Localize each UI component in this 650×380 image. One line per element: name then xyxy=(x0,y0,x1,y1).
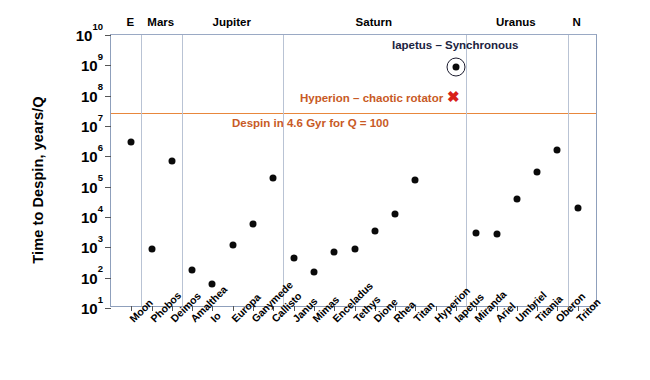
y-axis-title: Time to Despin, years/Q xyxy=(30,50,46,310)
data-point-rhea xyxy=(392,210,399,217)
group-divider xyxy=(568,35,569,306)
x-axis-label-io: Io xyxy=(208,310,223,325)
data-point-ganymede xyxy=(250,220,257,227)
y-axis-tick xyxy=(105,126,111,127)
data-point-callisto xyxy=(270,174,277,181)
data-point-iapetus xyxy=(452,63,459,70)
data-point-amalthea xyxy=(189,266,196,273)
group-header-strip: EMarsJupiterSaturnUranusN xyxy=(110,16,597,34)
data-point-europa xyxy=(229,241,236,248)
group-divider xyxy=(182,35,183,306)
annotation-despin: Despin in 4.6 Gyr for Q = 100 xyxy=(232,117,389,129)
y-axis-label: 105 xyxy=(81,179,103,195)
group-divider xyxy=(283,35,284,306)
data-point-oberon xyxy=(554,147,561,154)
group-divider xyxy=(466,35,467,306)
data-point-phobos xyxy=(148,245,155,252)
y-axis-tick xyxy=(105,156,111,157)
y-axis-label: 108 xyxy=(81,88,103,104)
group-divider xyxy=(141,35,142,306)
y-axis-tick xyxy=(105,247,111,248)
x-marker-icon: ✖ xyxy=(447,88,460,105)
annotation-hyperion: Hyperion – chaotic rotator✖ xyxy=(300,88,460,106)
data-point-dione xyxy=(371,227,378,234)
y-axis-label: 109 xyxy=(81,57,103,73)
y-axis-tick xyxy=(105,35,111,36)
y-axis-label: 104 xyxy=(81,209,103,225)
data-point-mimas xyxy=(310,269,317,276)
data-point-triton xyxy=(574,204,581,211)
plot-area: 1010109108107106105104103102101 xyxy=(110,34,597,307)
data-point-umbriel xyxy=(513,195,520,202)
data-point-enceladus xyxy=(331,249,338,256)
y-axis-tick xyxy=(105,308,111,309)
y-axis-label: 102 xyxy=(81,270,103,286)
data-point-titania xyxy=(534,169,541,176)
data-point-io xyxy=(209,281,216,288)
annotation-hyperion-text: Hyperion – chaotic rotator xyxy=(300,92,443,104)
chart-root: Time to Despin, years/Q EMarsJupiterSatu… xyxy=(0,0,650,380)
y-axis-tick xyxy=(105,217,111,218)
data-point-miranda xyxy=(473,229,480,236)
data-point-ariel xyxy=(493,230,500,237)
group-header-jupiter: Jupiter xyxy=(172,16,292,28)
data-point-tethys xyxy=(351,245,358,252)
group-header-n: N xyxy=(517,16,637,28)
data-point-janus xyxy=(290,254,297,261)
data-point-moon xyxy=(128,138,135,145)
data-point-deimos xyxy=(168,158,175,165)
y-axis-label: 101 xyxy=(81,300,103,316)
group-header-saturn: Saturn xyxy=(314,16,434,28)
y-axis-label: 107 xyxy=(81,118,103,134)
y-axis-tick xyxy=(105,187,111,188)
y-axis-tick xyxy=(105,278,111,279)
data-point-titan xyxy=(412,176,419,183)
y-axis-label: 103 xyxy=(81,239,103,255)
y-axis-label: 1010 xyxy=(76,27,103,43)
y-axis-tick xyxy=(105,65,111,66)
y-axis-tick xyxy=(105,96,111,97)
y-axis-label: 106 xyxy=(81,148,103,164)
annotation-iapetus: Iapetus – Synchronous xyxy=(392,39,519,51)
threshold-line xyxy=(111,113,596,114)
